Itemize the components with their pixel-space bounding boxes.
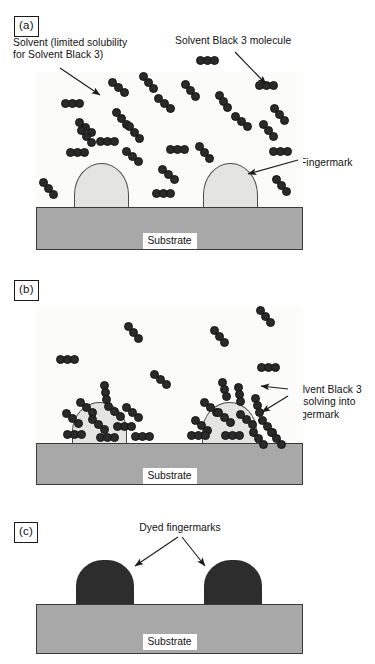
dyed-fingermark-1: [76, 560, 134, 605]
panel-a-tag: (a): [14, 16, 39, 37]
panel-b-tag: (b): [14, 280, 39, 301]
molecule-label: Solvent Black 3 molecule: [175, 35, 335, 47]
panel-c: (c) Dyed fingermarks Substrate: [0, 482, 375, 664]
substrate-label-a: Substrate: [142, 233, 196, 249]
solvent-label: Solvent (limited solubility for Solvent …: [13, 37, 163, 62]
panel-b: (b) Solvent Black 3 dissolving into fing…: [0, 250, 375, 482]
panel-a: (a) Solvent (limited solubility for Solv…: [0, 0, 375, 250]
substrate-a: Substrate: [36, 207, 303, 250]
dyed-fingermarks-label: Dyed fingermarks: [125, 522, 235, 534]
substrate-b: Substrate: [36, 443, 303, 485]
fingermark-label: Fingermark: [300, 157, 372, 169]
figure-container: (a) Solvent (limited solubility for Solv…: [0, 0, 375, 664]
substrate-label-c: Substrate: [142, 634, 196, 650]
panel-c-tag: (c): [14, 522, 38, 543]
substrate-c: Substrate: [36, 604, 303, 654]
dyed-fingermark-2: [204, 560, 262, 605]
